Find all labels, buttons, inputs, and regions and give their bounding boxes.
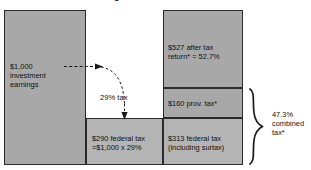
cut-off-title: Chart: investment earnings after tax xyxy=(8,0,158,1)
combined-tax-brace-icon xyxy=(250,89,263,164)
investment-earnings-label: $1,000 investment earnings xyxy=(10,62,66,90)
federal-tax-surtax-label: $313 federal tax (including surtax) xyxy=(168,134,243,152)
leader-arrowhead-icon xyxy=(95,63,103,69)
tax-breakdown-diagram: Chart: investment earnings after tax $1,… xyxy=(0,0,311,170)
after-tax-return-label: $527 after tax return* = 52.7% xyxy=(168,43,242,61)
middle-federal-tax-label: $290 federal tax =$1,000 x 29% xyxy=(92,134,164,152)
provincial-tax-label: $160 prov. tax* xyxy=(168,99,242,108)
tax-rate-annotation: 29% tax xyxy=(100,93,127,102)
combined-tax-label: 47.3% combined tax* xyxy=(272,110,310,138)
